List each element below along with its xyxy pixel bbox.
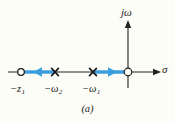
figure-caption: (a) [0, 103, 175, 114]
pole-label-w2-subscript: 2 [59, 88, 63, 96]
zero-label-z1: −z1 [10, 84, 25, 96]
sigma-axis-label: σ [162, 64, 167, 75]
pole-label-w1-subscript: 1 [97, 88, 101, 96]
pole-label-w1: −ω1 [82, 84, 100, 96]
zero-marker-z1-icon [18, 69, 25, 76]
zero-label-z1-subscript: 1 [21, 88, 25, 96]
jomega-axis-label: jω [121, 7, 132, 18]
pole-label-w1-symbol: ω [89, 83, 96, 94]
pole-label-w2-symbol: ω [51, 83, 58, 94]
locus-arrow-right-icon [108, 67, 117, 77]
pole-zero-figure: jω σ −z1 −ω2 −ω1 (a) [0, 0, 175, 122]
zero-marker-origin-icon [124, 68, 132, 76]
pole-label-w2: −ω2 [44, 84, 62, 96]
locus-arrow-left-icon [33, 67, 42, 77]
sigma-axis-arrowhead [153, 69, 161, 75]
jomega-axis-arrowhead [125, 20, 131, 28]
